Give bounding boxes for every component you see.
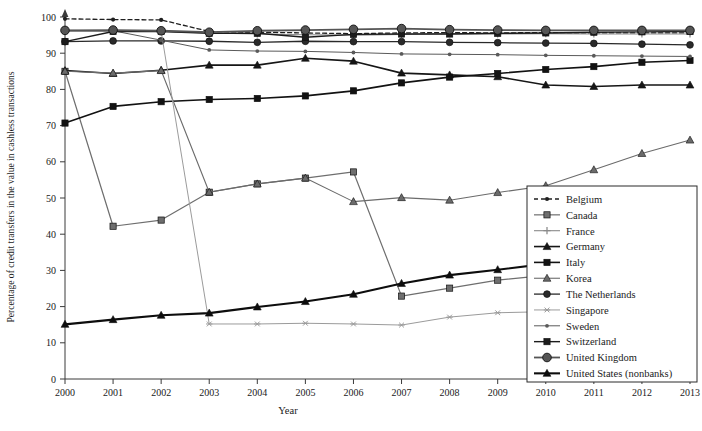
y-axis-title: Percentage of credit transfers in the va… bbox=[5, 71, 16, 322]
x-tick-label: 2002 bbox=[151, 387, 171, 398]
data-point-marker bbox=[398, 80, 404, 86]
x-tick-label: 2006 bbox=[343, 387, 363, 398]
data-point-marker bbox=[157, 26, 166, 35]
legend-label: Singapore bbox=[566, 305, 609, 316]
data-point-marker bbox=[686, 26, 695, 35]
y-axis-arrow-icon bbox=[62, 9, 69, 17]
y-tick-label: 10 bbox=[46, 337, 56, 348]
data-point-marker bbox=[495, 277, 501, 283]
x-axis-title: Year bbox=[278, 405, 298, 416]
data-point-marker bbox=[350, 322, 356, 327]
data-point-marker bbox=[350, 38, 357, 45]
legend-swatch-marker bbox=[544, 291, 551, 298]
data-point-marker bbox=[688, 55, 692, 59]
x-tick-label: 2012 bbox=[632, 387, 652, 398]
data-point-marker bbox=[541, 26, 550, 35]
data-point-marker bbox=[206, 96, 212, 102]
data-point-marker bbox=[254, 39, 261, 46]
series-germany bbox=[61, 54, 694, 89]
data-point-marker bbox=[398, 194, 406, 201]
data-point-marker bbox=[638, 26, 647, 35]
data-point-marker bbox=[302, 34, 308, 40]
legend-swatch-marker bbox=[544, 212, 550, 218]
x-tick-label: 2009 bbox=[488, 387, 508, 398]
y-tick-group: 0102030405060708090100 bbox=[41, 12, 65, 385]
data-point-marker bbox=[496, 53, 500, 57]
data-point-marker bbox=[109, 26, 118, 35]
data-point-marker bbox=[350, 169, 356, 175]
data-point-marker bbox=[301, 26, 310, 35]
data-point-marker bbox=[207, 48, 211, 52]
legend-swatch-marker bbox=[544, 339, 550, 345]
data-point-marker bbox=[446, 39, 453, 46]
x-tick-label: 2001 bbox=[103, 387, 123, 398]
data-point-marker bbox=[350, 88, 356, 94]
data-point-marker bbox=[255, 49, 259, 53]
y-tick-label: 100 bbox=[41, 12, 56, 23]
data-point-marker bbox=[445, 25, 454, 34]
data-point-marker bbox=[159, 18, 163, 22]
legend-swatch-marker bbox=[545, 197, 549, 201]
data-point-marker bbox=[400, 52, 404, 56]
legend-label: France bbox=[566, 226, 595, 237]
y-axis: 0102030405060708090100 bbox=[41, 9, 68, 385]
data-point-marker bbox=[542, 40, 549, 47]
data-point-marker bbox=[254, 95, 260, 101]
y-tick-label: 90 bbox=[46, 48, 56, 59]
y-tick-label: 80 bbox=[46, 84, 56, 95]
data-point-marker bbox=[253, 26, 262, 35]
data-point-marker bbox=[62, 120, 68, 126]
y-tick-label: 0 bbox=[51, 374, 56, 385]
data-point-marker bbox=[110, 103, 116, 109]
y-tick-label: 60 bbox=[46, 156, 56, 167]
x-tick-label: 2007 bbox=[392, 387, 412, 398]
y-tick-label: 20 bbox=[46, 301, 56, 312]
line-chart-canvas: 0102030405060708090100 20002001200220032… bbox=[0, 0, 702, 431]
data-point-marker bbox=[205, 28, 214, 37]
data-point-marker bbox=[63, 17, 67, 21]
chart-legend: BelgiumCanadaFranceGermanyItalyKoreaThe … bbox=[527, 186, 697, 382]
legend-label: Germany bbox=[566, 241, 606, 252]
legend-label: Sweden bbox=[566, 321, 600, 332]
data-point-marker bbox=[447, 285, 453, 291]
data-point-marker bbox=[447, 74, 453, 80]
data-point-marker bbox=[398, 293, 404, 299]
x-tick-label: 2004 bbox=[247, 387, 267, 398]
data-point-marker bbox=[639, 41, 646, 48]
data-point-marker bbox=[111, 17, 115, 21]
legend-swatch-marker bbox=[545, 324, 549, 328]
legend-label: Belgium bbox=[566, 194, 602, 205]
data-point-marker bbox=[590, 40, 597, 47]
data-point-marker bbox=[495, 70, 501, 76]
series-line bbox=[65, 71, 690, 202]
legend-label: Italy bbox=[566, 257, 586, 268]
data-point-marker bbox=[158, 99, 164, 105]
data-point-marker bbox=[158, 217, 164, 223]
x-tick-label: 2005 bbox=[295, 387, 315, 398]
data-point-marker bbox=[159, 38, 163, 42]
x-tick-label: 2013 bbox=[680, 387, 700, 398]
x-tick-label: 2008 bbox=[440, 387, 460, 398]
legend-label: United States (nonbanks) bbox=[566, 368, 673, 380]
data-point-marker bbox=[254, 322, 260, 327]
legend-label: Canada bbox=[566, 210, 598, 221]
data-point-marker bbox=[62, 39, 68, 45]
data-point-marker bbox=[398, 38, 405, 45]
y-tick-label: 70 bbox=[46, 120, 56, 131]
x-tick-label: 2011 bbox=[584, 387, 604, 398]
y-tick-label: 50 bbox=[46, 193, 56, 204]
legend-label: Korea bbox=[566, 273, 592, 284]
y-tick-label: 40 bbox=[46, 229, 56, 240]
data-point-marker bbox=[61, 26, 70, 35]
legend-label: The Netherlands bbox=[566, 289, 636, 300]
legend-swatch-marker bbox=[544, 259, 550, 265]
data-point-marker bbox=[592, 54, 596, 58]
data-point-marker bbox=[448, 52, 452, 56]
data-point-marker bbox=[639, 59, 645, 65]
legend-label: Switzerland bbox=[566, 336, 617, 347]
data-point-marker bbox=[446, 315, 452, 320]
data-point-marker bbox=[494, 39, 501, 46]
data-point-marker bbox=[493, 26, 502, 35]
legend-label: United Kingdom bbox=[566, 352, 637, 363]
data-point-marker bbox=[590, 26, 599, 35]
